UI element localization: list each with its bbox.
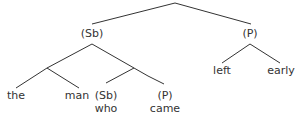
syntax-tree: (Sb) (P) the man (Sb) who (P) came left … [0,0,299,123]
edge-p-early [250,44,280,63]
leaf-came: came [150,102,181,115]
leaf-early: early [267,64,295,77]
edge-np-the [16,68,47,88]
node-label-p: (P) [242,27,257,40]
node-label-p-inner: (P) [157,89,172,102]
node-label-sb: (Sb) [81,27,104,40]
edge-np-man [47,68,79,88]
leaf-who: who [95,102,118,115]
leaf-man: man [65,89,89,102]
edge-rel-came [148,76,164,84]
node-label-sb-inner: (Sb) [95,89,118,102]
leaf-left: left [213,64,232,77]
edge-p-left [222,44,250,63]
edge-root-sb [92,3,175,24]
edge-sb-np [47,44,92,68]
leaf-the: the [7,89,25,102]
edge-root-p [175,3,251,24]
edge-rel-who [106,68,134,83]
edge-sb-rel [92,44,148,76]
